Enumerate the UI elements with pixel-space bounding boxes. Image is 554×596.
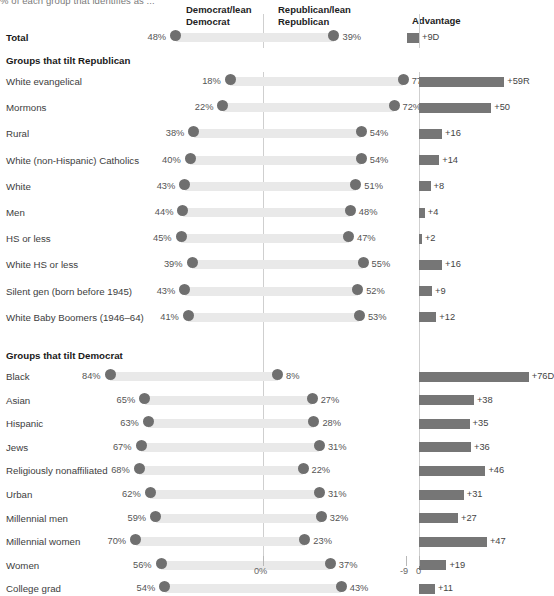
advantage-bar — [419, 103, 491, 113]
republican-dot — [299, 534, 310, 545]
democrat-value: 70% — [66, 535, 126, 548]
democrat-dot — [156, 558, 167, 569]
republican-dot — [307, 393, 318, 404]
democrat-track — [183, 208, 263, 217]
advantage-label: +14 — [442, 154, 458, 167]
advantage-label: +16 — [445, 258, 461, 271]
advantage-bar — [419, 181, 431, 191]
republican-value: 22% — [312, 464, 331, 477]
chart-row: HS or less45%47%+2 — [0, 231, 516, 246]
democrat-value: 59% — [86, 512, 146, 525]
republican-track — [263, 514, 321, 523]
row-label: Rural — [6, 127, 29, 140]
republican-value: 55% — [372, 258, 391, 271]
republican-value: 47% — [357, 232, 376, 245]
advantage-bar — [419, 584, 435, 594]
row-label: White evangelical — [6, 75, 82, 88]
republican-value: 8% — [286, 370, 299, 383]
democrat-dot — [183, 310, 194, 321]
advantage-bar — [419, 260, 442, 270]
advantage-label: +76D — [532, 370, 554, 383]
advantage-label: +36 — [474, 441, 490, 454]
chart-subtitle: % of each group that identifies as ... — [0, 0, 155, 6]
advantage-label: +8 — [434, 180, 445, 193]
democrat-dot — [150, 511, 161, 522]
section-header-democrat: Groups that tilt Democrat — [6, 350, 123, 361]
chart-row: White43%51%+8 — [0, 179, 516, 194]
democrat-track — [110, 372, 263, 381]
republican-value: 53% — [368, 311, 387, 324]
advantage-bar — [419, 537, 487, 547]
republican-value: 39% — [342, 31, 361, 44]
democrat-track — [188, 313, 263, 322]
democrat-value: 22% — [153, 101, 213, 114]
democrat-track — [192, 260, 263, 269]
chart-row: Rural38%54%+16 — [0, 126, 516, 141]
advantage-label: +31 — [467, 488, 483, 501]
democrat-track — [150, 490, 263, 499]
democrat-track — [139, 466, 263, 475]
advantage-bar — [419, 372, 529, 382]
row-label: Asian — [6, 394, 30, 407]
republican-dot — [356, 126, 367, 137]
column-header-republican: Republican/lean Republican — [278, 4, 373, 27]
democrat-value: 62% — [81, 488, 141, 501]
advantage-bar — [419, 490, 464, 500]
democrat-dot — [176, 231, 187, 242]
chart-row: White HS or less39%55%+16 — [0, 257, 516, 272]
democrat-value: 18% — [161, 75, 221, 88]
republican-value: 43% — [350, 582, 369, 595]
democrat-value: 40% — [121, 154, 181, 167]
row-label: Silent gen (born before 1945) — [6, 285, 132, 298]
democrat-value: 43% — [115, 285, 175, 298]
republican-value: 48% — [359, 206, 378, 219]
democrat-dot — [145, 487, 156, 498]
republican-dot — [328, 30, 339, 41]
democrat-track — [148, 419, 263, 428]
democrat-dot — [187, 257, 198, 268]
republican-track — [263, 561, 330, 570]
row-label: Black — [6, 370, 30, 383]
republican-track — [263, 208, 350, 217]
republican-value: 31% — [328, 441, 347, 454]
republican-track — [263, 33, 334, 42]
democrat-dot — [136, 440, 147, 451]
advantage-label: +11 — [438, 582, 453, 595]
advantage-bar — [419, 208, 425, 218]
advantage-bar — [419, 234, 422, 244]
row-label: College grad — [6, 582, 61, 595]
democrat-track — [145, 396, 263, 405]
republican-track — [263, 234, 349, 243]
republican-value: 31% — [328, 488, 347, 501]
democrat-value: 45% — [112, 232, 172, 245]
advantage-label: +16 — [445, 127, 461, 140]
advantage-label: +35 — [473, 417, 489, 430]
democrat-track — [156, 514, 263, 523]
advantage-label: +2 — [425, 232, 436, 245]
republican-value: 23% — [313, 535, 332, 548]
republican-dot — [356, 153, 367, 164]
democrat-value: 63% — [79, 417, 139, 430]
advantage-bar — [419, 155, 439, 165]
republican-dot — [308, 416, 319, 427]
democrat-track — [194, 129, 263, 138]
republican-dot — [354, 310, 365, 321]
row-label: Men — [6, 206, 25, 219]
democrat-track — [176, 33, 263, 42]
republican-track — [263, 129, 361, 138]
democrat-track — [136, 537, 263, 546]
chart-row: Asian65%27%+38 — [0, 393, 516, 408]
republican-track — [263, 287, 358, 296]
republican-value: 52% — [366, 285, 385, 298]
column-header-republican-line2: Republican — [278, 16, 373, 28]
chart-row: College grad54%43%+11 — [0, 581, 516, 596]
democrat-dot — [139, 393, 150, 404]
advantage-neg9-label: -9 — [400, 566, 408, 576]
chart-row: Total48%39%+9D — [0, 30, 516, 45]
democrat-track — [185, 182, 263, 191]
republican-track — [263, 260, 363, 269]
row-label: Total — [6, 31, 28, 44]
advantage-label: +19 — [449, 559, 465, 572]
democrat-value: 44% — [113, 206, 173, 219]
